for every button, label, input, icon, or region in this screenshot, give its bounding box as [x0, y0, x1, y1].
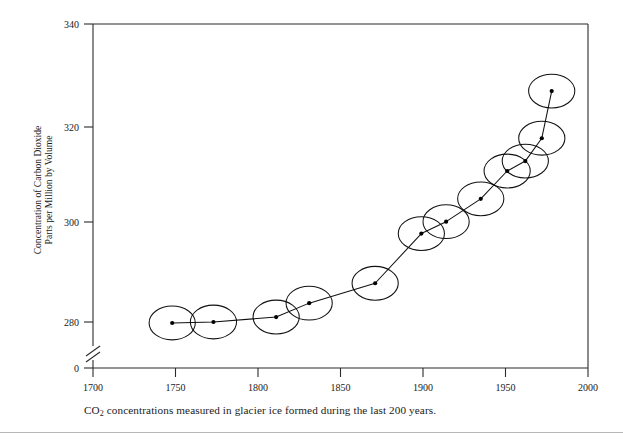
- data-point: [211, 320, 215, 324]
- data-point: [373, 281, 377, 285]
- y-axis-tick-labels: 340 320 300 280 0: [64, 19, 79, 374]
- series-line: [172, 91, 552, 323]
- x-tick-label-1850: 1850: [331, 382, 351, 393]
- y-tick-label-300: 300: [64, 217, 79, 228]
- data-point: [444, 220, 448, 224]
- y-axis-break-icon: [86, 346, 100, 362]
- x-tick-label-2000: 2000: [578, 382, 598, 393]
- y-tick-label-320: 320: [64, 122, 79, 133]
- data-point: [523, 159, 527, 163]
- data-series-layer: [149, 74, 575, 340]
- y-tick-label-origin: 0: [74, 363, 79, 374]
- data-point: [274, 315, 278, 319]
- caption-text: concentrations measured in glacier ice f…: [104, 404, 436, 416]
- data-point: [307, 301, 311, 305]
- co2-concentration-chart: Concentration of Carbon Dioxide Parts pe…: [0, 0, 623, 444]
- figure-page: Concentration of Carbon Dioxide Parts pe…: [0, 0, 623, 444]
- data-point: [419, 231, 423, 235]
- page-divider-rule: [0, 432, 623, 433]
- y-axis-ticks: [84, 24, 93, 368]
- x-axis-tick-labels: 1700 1750 1800 1850 1900 1950 2000: [83, 382, 598, 393]
- y-axis-title: Concentration of Carbon Dioxide Parts pe…: [32, 126, 54, 255]
- x-tick-label-1750: 1750: [166, 382, 186, 393]
- data-point: [550, 89, 554, 93]
- data-points: [170, 89, 554, 325]
- x-tick-label-1700: 1700: [83, 382, 103, 393]
- plot-frame: [93, 24, 588, 368]
- figure-caption: CO2 concentrations measured in glacier i…: [84, 404, 584, 418]
- x-axis-ticks: [93, 368, 588, 377]
- x-tick-label-1800: 1800: [248, 382, 268, 393]
- y-tick-label-340: 340: [64, 19, 79, 30]
- x-tick-label-1900: 1900: [413, 382, 433, 393]
- data-point: [505, 169, 509, 173]
- data-point: [479, 197, 483, 201]
- x-tick-label-1950: 1950: [496, 382, 516, 393]
- y-tick-label-280: 280: [64, 317, 79, 328]
- y-axis-title-line1: Concentration of Carbon Dioxide: [32, 126, 43, 255]
- data-point: [540, 136, 544, 140]
- data-point: [170, 321, 174, 325]
- uncertainty-ellipses: [149, 74, 575, 340]
- caption-co2-prefix: CO: [84, 404, 100, 416]
- y-axis-title-line2: Parts per Million by Volume: [43, 136, 54, 245]
